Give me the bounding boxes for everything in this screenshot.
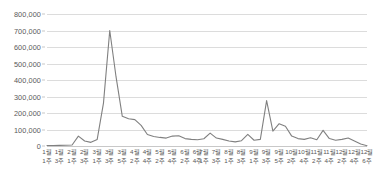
x-tick-month: 9월 xyxy=(249,147,258,156)
x-axis-tick-label: 10월2주 xyxy=(285,147,298,165)
y-axis-tick-mark xyxy=(42,14,45,15)
x-axis-tick-label: 4월4주 xyxy=(143,147,152,165)
plot-area xyxy=(47,14,367,146)
x-axis-tick-label: 11월2주 xyxy=(311,147,323,165)
x-tick-week: 4주 xyxy=(143,156,152,165)
x-tick-week: 1주 xyxy=(92,156,101,165)
x-tick-week: 6주 xyxy=(361,156,374,165)
x-tick-week: 3주 xyxy=(80,156,89,165)
line-chart: 0100,000200,000300,000400,000500,000600,… xyxy=(0,0,376,179)
x-tick-week: 3주 xyxy=(237,156,246,165)
x-axis-tick-label: 7월3주 xyxy=(212,147,221,165)
x-tick-month: 10월 xyxy=(298,147,311,156)
x-tick-month: 3월 xyxy=(118,147,127,156)
x-tick-month: 8월 xyxy=(237,147,246,156)
y-axis-tick-label: 200,000 xyxy=(14,109,41,118)
x-tick-month: 12월 xyxy=(361,147,374,156)
x-tick-month: 2월 xyxy=(80,147,89,156)
y-axis-tick-mark xyxy=(42,63,45,64)
x-axis-tick-label: 8월1주 xyxy=(224,147,233,165)
y-axis-tick-mark xyxy=(42,30,45,31)
series-polyline xyxy=(47,31,367,146)
x-axis-tick-label: 10월4주 xyxy=(298,147,311,165)
x-tick-week: 1주 xyxy=(224,156,233,165)
x-axis-tick-label: 5월2주 xyxy=(155,147,164,165)
x-tick-month: 11월 xyxy=(311,147,323,156)
x-axis-tick-label: 12월4주 xyxy=(348,147,361,165)
x-tick-week: 4주 xyxy=(298,156,311,165)
x-tick-month: 3월 xyxy=(92,147,101,156)
x-tick-month: 4월 xyxy=(143,147,152,156)
x-axis-tick-label: 12월6주 xyxy=(361,147,374,165)
x-axis-tick-label: 2월1주 xyxy=(67,147,76,165)
x-axis-tick-label: 2월3주 xyxy=(80,147,89,165)
x-tick-month: 7월 xyxy=(199,147,208,156)
x-axis-tick-label: 5월4주 xyxy=(168,147,177,165)
x-tick-week: 3주 xyxy=(105,156,114,165)
x-axis-tick-label: 7월1주 xyxy=(199,147,208,165)
y-axis-tick-mark xyxy=(42,80,45,81)
x-tick-month: 12월 xyxy=(348,147,361,156)
x-tick-week: 3주 xyxy=(212,156,221,165)
y-axis-tick-mark xyxy=(42,113,45,114)
x-tick-week: 4주 xyxy=(168,156,177,165)
x-tick-month: 3월 xyxy=(105,147,114,156)
x-tick-month: 11월 xyxy=(323,147,335,156)
x-tick-month: 10월 xyxy=(285,147,298,156)
x-tick-week: 2주 xyxy=(180,156,189,165)
x-tick-week: 3주 xyxy=(262,156,271,165)
y-axis-tick-label: 0 xyxy=(37,142,41,151)
x-tick-week: 5주 xyxy=(274,156,283,165)
x-tick-month: 9월 xyxy=(262,147,271,156)
x-axis-tick-label: 4월2주 xyxy=(130,147,139,165)
y-axis-tick-mark xyxy=(42,129,45,130)
x-tick-week: 2주 xyxy=(130,156,139,165)
x-tick-week: 3주 xyxy=(55,156,64,165)
x-axis-tick-label: 1월1주 xyxy=(42,147,51,165)
x-tick-month: 5월 xyxy=(168,147,177,156)
x-tick-week: 1주 xyxy=(42,156,51,165)
x-tick-week: 1주 xyxy=(249,156,258,165)
x-axis-tick-label: 3월5주 xyxy=(118,147,127,165)
x-tick-week: 2주 xyxy=(335,156,348,165)
x-axis-tick-label: 6월2주 xyxy=(180,147,189,165)
x-tick-month: 12월 xyxy=(335,147,348,156)
x-axis-tick-label: 9월3주 xyxy=(262,147,271,165)
x-axis-tick-label: 1월3주 xyxy=(55,147,64,165)
x-tick-month: 6월 xyxy=(180,147,189,156)
x-tick-month: 7월 xyxy=(212,147,221,156)
y-axis-tick-label: 100,000 xyxy=(14,125,41,134)
y-axis-tick-label: 600,000 xyxy=(14,43,41,52)
x-tick-week: 5주 xyxy=(118,156,127,165)
x-tick-month: 8월 xyxy=(224,147,233,156)
x-axis: 1월1주1월3주2월1주2월3주3월1주3월3주3월5주4월2주4월4주5월2주… xyxy=(47,147,367,173)
x-tick-month: 9월 xyxy=(274,147,283,156)
y-axis-tick-label: 400,000 xyxy=(14,76,41,85)
x-tick-week: 1주 xyxy=(199,156,208,165)
x-tick-week: 2주 xyxy=(285,156,298,165)
x-axis-tick-label: 3월1주 xyxy=(92,147,101,165)
x-tick-week: 2주 xyxy=(155,156,164,165)
y-axis: 0100,000200,000300,000400,000500,000600,… xyxy=(0,14,45,146)
x-axis-tick-label: 9월5주 xyxy=(274,147,283,165)
x-tick-week: 2주 xyxy=(311,156,323,165)
x-tick-month: 5월 xyxy=(155,147,164,156)
x-tick-month: 1월 xyxy=(42,147,51,156)
y-axis-tick-label: 300,000 xyxy=(14,92,41,101)
y-axis-tick-label: 700,000 xyxy=(14,26,41,35)
y-axis-tick-label: 500,000 xyxy=(14,59,41,68)
x-axis-tick-label: 8월3주 xyxy=(237,147,246,165)
x-axis-tick-label: 3월3주 xyxy=(105,147,114,165)
x-tick-week: 4주 xyxy=(348,156,361,165)
x-axis-tick-label: 11월4주 xyxy=(323,147,335,165)
series-line-svg xyxy=(47,14,367,146)
x-tick-week: 4주 xyxy=(323,156,335,165)
y-axis-tick-mark xyxy=(42,96,45,97)
x-axis-tick-label: 9월1주 xyxy=(249,147,258,165)
x-tick-month: 1월 xyxy=(55,147,64,156)
y-axis-tick-mark xyxy=(42,47,45,48)
x-tick-week: 1주 xyxy=(67,156,76,165)
x-tick-month: 4월 xyxy=(130,147,139,156)
x-tick-month: 2월 xyxy=(67,147,76,156)
x-axis-tick-label: 12월2주 xyxy=(335,147,348,165)
